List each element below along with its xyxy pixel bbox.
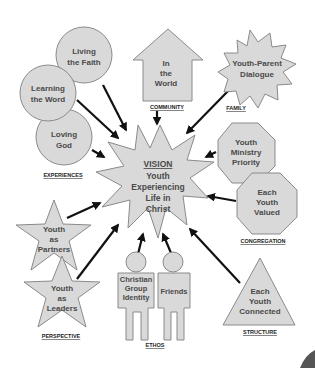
node-label: Friends [160,287,187,296]
group-structure: Each Youth Connected STRUCTURE [223,258,295,335]
group-experiences: Living the Faith Loving God Learning the… [20,27,112,178]
arrow-leaders [77,225,118,279]
node-label: Youth-Parent [232,59,282,68]
arrow-ministry-priority [206,152,216,157]
caption-family: FAMILY [226,105,246,111]
node-label: Group [125,284,148,293]
arrow-family [187,89,230,133]
node-label: Youth [235,138,257,147]
caption-community: COMMUNITY [150,104,184,110]
node-label: Identity [123,293,150,302]
node-label: Ministry [231,148,262,157]
node-label: Priority [232,158,261,167]
group-community: In the World COMMUNITY [133,29,203,110]
group-family: Youth-Parent Dialogue FAMILY [218,30,296,111]
vision-line: Christ [146,204,171,214]
node-label: Youth [256,198,278,207]
node-label: Living [72,47,96,56]
node-label: Youth [43,225,65,234]
node-label: Learning [31,84,65,93]
node-label: the [160,69,173,78]
arrow-living-faith [103,85,126,130]
group-congregation: Youth Ministry Priority Each Youth Value… [218,123,297,244]
arrow-partners [67,203,100,218]
group-ethos: Christian Group Identity Friends ETHOS [118,252,190,348]
vision-diagram: VISION Youth Experiencing Life in Christ… [0,0,315,368]
node-label: as [50,235,59,244]
vision-line: Life in [145,193,170,203]
circle-learning-word [20,65,76,121]
vision-line: Youth [146,171,169,181]
vision-title: VISION [144,159,173,169]
node-label: Dialogue [240,70,274,79]
node-label: In [162,59,169,68]
corner-decoration [300,350,315,368]
caption-structure: STRUCTURE [243,329,277,335]
node-label: Youth [51,284,73,293]
vision-line: Experiencing [131,182,184,192]
caption-congregation: CONGREGATION [240,238,285,244]
node-label: World [155,79,178,88]
vision-node: VISION Youth Experiencing Life in Christ [96,125,214,238]
arrow-loving-god [92,150,104,157]
node-label: Each [250,287,269,296]
node-label: Connected [239,307,280,316]
group-perspective: Youth as Partners Youth as Leaders PERSP… [16,200,100,339]
node-label: Valued [254,208,280,217]
node-label: the Word [31,95,66,104]
node-label: Leaders [47,304,78,313]
node-label: as [58,294,67,303]
node-label: Partners [38,245,71,254]
starburst-youth-parent [218,30,296,108]
node-label: Loving [51,130,77,139]
arrow-youth-valued [208,196,236,201]
node-label: Youth [249,297,271,306]
node-label: Each [257,188,276,197]
caption-ethos: ETHOS [146,342,165,348]
caption-perspective: PERSPECTIVE [42,333,81,339]
node-label: the Faith [67,58,100,67]
arrow-friends [163,234,171,253]
caption-experiences: EXPERIENCES [43,172,82,178]
node-label: Christian [120,275,153,284]
person-friends [158,252,190,340]
node-label: God [56,141,72,150]
arrow-structure [190,229,240,283]
arrow-christian-identity [138,234,143,254]
